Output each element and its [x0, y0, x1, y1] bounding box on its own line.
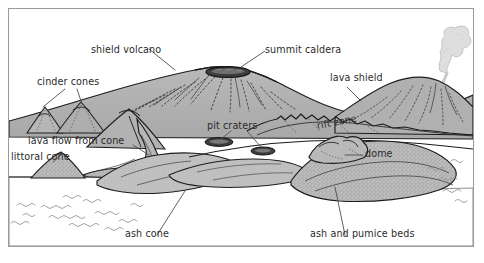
label-ash-cone: ash cone: [125, 229, 169, 239]
label-ash-and-pumice-beds: ash and pumice beds: [310, 229, 415, 239]
pit-crater-right: [251, 147, 275, 155]
volcano-diagram-figure: shield volcano summit caldera cinder con…: [0, 0, 484, 263]
diagram-frame: shield volcano summit caldera cinder con…: [8, 8, 474, 247]
label-cinder-cones: cinder cones: [37, 77, 99, 87]
label-summit-caldera: summit caldera: [265, 45, 341, 55]
label-lava-flow-from-cone: lava flow from cone: [28, 136, 124, 146]
summit-caldera-crater: [206, 67, 250, 78]
label-lava-shield: lava shield: [330, 73, 383, 83]
label-pit-craters: pit craters: [207, 121, 257, 131]
label-dome: dome: [365, 149, 393, 159]
label-shield-volcano: shield volcano: [91, 45, 161, 55]
pit-crater-left: [205, 138, 233, 147]
label-littoral-cone: littoral cone: [11, 152, 70, 162]
